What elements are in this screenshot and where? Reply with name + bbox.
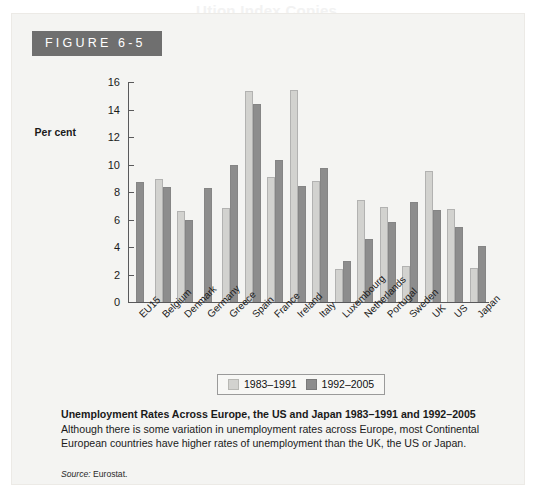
y-axis-tick: 6	[62, 214, 129, 226]
source-label: Source:	[61, 469, 91, 479]
bar-group	[197, 82, 220, 302]
chart-area: Per cent 0246810121416 EU15BelgiumDenmar…	[60, 72, 492, 308]
bar-group	[174, 82, 197, 302]
caption-body: Although there is some variation in unem…	[61, 423, 479, 450]
x-axis-labels: EU15BelgiumDenmarkGermanyGreeceSpainFran…	[128, 306, 488, 376]
legend-swatch	[306, 379, 317, 390]
legend-label: 1983–1991	[244, 378, 297, 390]
bar-group	[264, 82, 287, 302]
y-axis-tick: 2	[62, 269, 129, 281]
figure-panel: FIGURE 6-5 Per cent 0246810121416 EU15Be…	[12, 14, 524, 484]
bar	[230, 165, 238, 302]
bar-group	[399, 82, 422, 302]
legend-swatch	[228, 379, 239, 390]
legend-item: 1992–2005	[306, 378, 375, 390]
y-axis-tick: 8	[62, 186, 129, 198]
bar-group	[354, 82, 377, 302]
figure-caption: Unemployment Rates Across Europe, the US…	[61, 407, 489, 451]
bar	[343, 261, 351, 302]
y-axis-tick: 16	[62, 76, 129, 88]
bar	[290, 90, 298, 302]
source-value: Eurostat.	[93, 469, 127, 479]
bar	[275, 160, 283, 302]
bar-group	[377, 82, 400, 302]
y-axis-tick: 12	[62, 131, 129, 143]
y-axis-tick: 14	[62, 104, 129, 116]
source-note: Source: Eurostat.	[61, 469, 127, 479]
bar	[298, 186, 306, 302]
bar	[335, 269, 343, 302]
chart-legend: 1983–19911992–2005	[217, 374, 385, 395]
bar	[245, 91, 253, 302]
y-axis-tick: 10	[62, 159, 129, 171]
bar	[478, 246, 486, 302]
bar-group	[309, 82, 332, 302]
bar-series-container	[129, 82, 489, 302]
plot-region: 0246810121416	[128, 82, 489, 303]
bar-group	[242, 82, 265, 302]
bar-group	[219, 82, 242, 302]
bar-group	[467, 82, 490, 302]
x-axis-label: US	[452, 302, 470, 320]
bar	[320, 168, 328, 302]
bar	[447, 209, 455, 302]
bar	[312, 181, 320, 302]
bar-group	[152, 82, 175, 302]
bar	[425, 171, 433, 302]
bar	[267, 177, 275, 302]
legend-item: 1983–1991	[228, 378, 297, 390]
bar-group	[287, 82, 310, 302]
figure-tag: FIGURE 6-5	[32, 31, 162, 56]
bar	[136, 182, 144, 302]
figure-page: Ution Index Copies Unemployment Rates FI…	[0, 0, 548, 499]
bar	[253, 104, 261, 302]
bar	[155, 179, 163, 302]
x-axis-label: UK	[430, 302, 448, 320]
caption-title: Unemployment Rates Across Europe, the US…	[61, 408, 476, 420]
bar-group	[422, 82, 445, 302]
y-axis-tick: 0	[62, 296, 129, 308]
bar	[163, 187, 171, 302]
legend-label: 1992–2005	[322, 378, 375, 390]
bar	[470, 268, 478, 302]
bar-group	[332, 82, 355, 302]
bar-group	[444, 82, 467, 302]
bar	[455, 227, 463, 302]
y-axis-tick: 4	[62, 241, 129, 253]
